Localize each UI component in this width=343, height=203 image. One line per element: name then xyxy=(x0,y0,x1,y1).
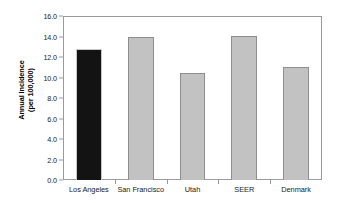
x-tick-label: Los Angeles xyxy=(69,185,109,194)
y-tick-label: 4.0 xyxy=(47,135,57,144)
x-tick-mark xyxy=(270,180,271,184)
bar-series xyxy=(63,16,322,180)
bar-san-francisco[interactable] xyxy=(128,37,154,181)
y-tick-label: 2.0 xyxy=(47,155,57,164)
bar-los-angeles[interactable] xyxy=(76,49,102,180)
y-tick-label: 16.0 xyxy=(43,12,57,21)
y-tick-label: 8.0 xyxy=(47,94,57,103)
y-tick-label: 0.0 xyxy=(47,176,57,185)
x-tick-label: Denmark xyxy=(281,185,311,194)
y-tick-label: 6.0 xyxy=(47,114,57,123)
bar-chart: Annual Incidence (per 100,000) 0.02.04.0… xyxy=(0,0,343,203)
bar-denmark[interactable] xyxy=(283,67,309,180)
x-tick-mark xyxy=(218,180,219,184)
y-axis: 0.02.04.06.08.010.012.014.016.0 xyxy=(0,0,63,203)
x-tick-label: Utah xyxy=(185,185,200,194)
x-tick-mark xyxy=(167,180,168,184)
x-tick-label: San Francisco xyxy=(117,185,164,194)
x-tick-mark xyxy=(115,180,116,184)
y-tick-label: 12.0 xyxy=(43,53,57,62)
x-axis: Los AngelesSan FranciscoUtahSEERDenmark xyxy=(63,180,322,203)
y-tick-label: 14.0 xyxy=(43,32,57,41)
bar-utah[interactable] xyxy=(180,73,206,180)
bar-seer[interactable] xyxy=(231,36,257,180)
y-tick-label: 10.0 xyxy=(43,73,57,82)
x-tick-label: SEER xyxy=(234,185,254,194)
